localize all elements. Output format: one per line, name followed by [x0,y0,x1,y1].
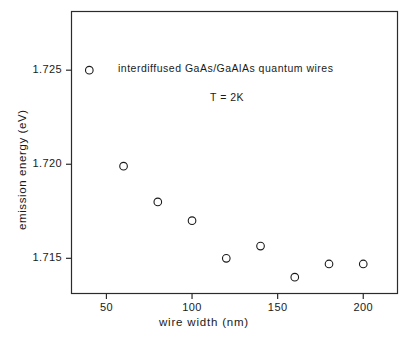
plot-border [72,12,398,294]
data-point-marker [120,162,128,170]
data-point-marker [359,260,367,268]
data-point-marker [325,260,333,268]
y-tick-label: 1.715 [4,251,62,263]
y-axis-ticks [66,70,72,258]
x-axis-label-text: wire width (nm) [0,316,408,328]
y-tick-label: 1.725 [4,63,62,75]
chart-annotation-text: interdiffused GaAs/GaAlAs quantum wires [118,62,333,74]
x-tick-label: 200 [338,301,388,313]
chart-annotation-text: T = 2K [210,91,244,103]
data-point-marker [257,242,265,250]
x-tick-label: 50 [81,301,131,313]
x-tick-label: 150 [253,301,303,313]
y-axis-label-text: emission energy (eV) [16,109,28,230]
data-point-marker [154,198,162,206]
data-point-marker [291,273,299,281]
plot-frame [72,12,398,294]
data-point-marker [222,255,230,263]
figure-scatter-plot: 50100150200 1.7151.7201.725 emission ene… [0,0,408,341]
plot-canvas [0,0,408,341]
data-point-marker [188,217,196,225]
data-point-marker [86,66,94,74]
x-axis-ticks [106,294,363,300]
y-tick-label: 1.720 [4,157,62,169]
x-tick-label: 100 [167,301,217,313]
